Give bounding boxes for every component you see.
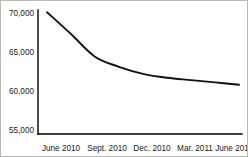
series-line-path <box>47 12 239 85</box>
chart-figure: 70,000 65,000 60,000 55,000 June 2010 Se… <box>0 0 248 157</box>
xtick-label-3: Mar. 2011 <box>177 144 213 153</box>
ytick-label-3: 55,000 <box>9 126 34 135</box>
ytick-label-1: 65,000 <box>9 48 34 57</box>
xtick-label-4: June 2011 <box>215 144 248 153</box>
xtick-label-0: June 2010 <box>42 144 81 153</box>
xtick-label-2: Dec. 2010 <box>133 144 171 153</box>
line-chart: 70,000 65,000 60,000 55,000 June 2010 Se… <box>1 1 248 157</box>
xtick-label-1: Sept. 2010 <box>87 144 127 153</box>
ytick-label-0: 70,000 <box>9 9 34 18</box>
ytick-label-2: 60,000 <box>9 87 34 96</box>
